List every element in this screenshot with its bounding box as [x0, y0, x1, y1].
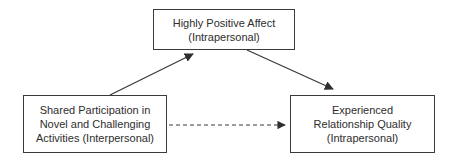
node-experienced-relationship-quality: Experienced Relationship Quality (Intrap…: [290, 95, 435, 153]
path-diagram: Highly Positive Affect (Intrapersonal) S…: [0, 0, 455, 162]
node-shared-participation: Shared Participation in Novel and Challe…: [23, 95, 167, 153]
node-label-line: Shared Participation in: [40, 103, 151, 117]
node-label-line: Novel and Challenging: [40, 117, 151, 131]
node-label-line: Activities (Interpersonal): [36, 131, 154, 145]
node-label-line: Experienced: [332, 103, 393, 117]
edge-participation-to-affect: [110, 54, 193, 95]
node-label-line: (Intrapersonal): [188, 30, 260, 44]
edge-affect-to-relationship-quality: [247, 50, 333, 89]
node-highly-positive-affect: Highly Positive Affect (Intrapersonal): [153, 9, 295, 50]
node-label-line: Relationship Quality: [314, 117, 412, 131]
node-label-line: (Intrapersonal): [327, 131, 399, 145]
node-label-line: Highly Positive Affect: [173, 16, 276, 30]
